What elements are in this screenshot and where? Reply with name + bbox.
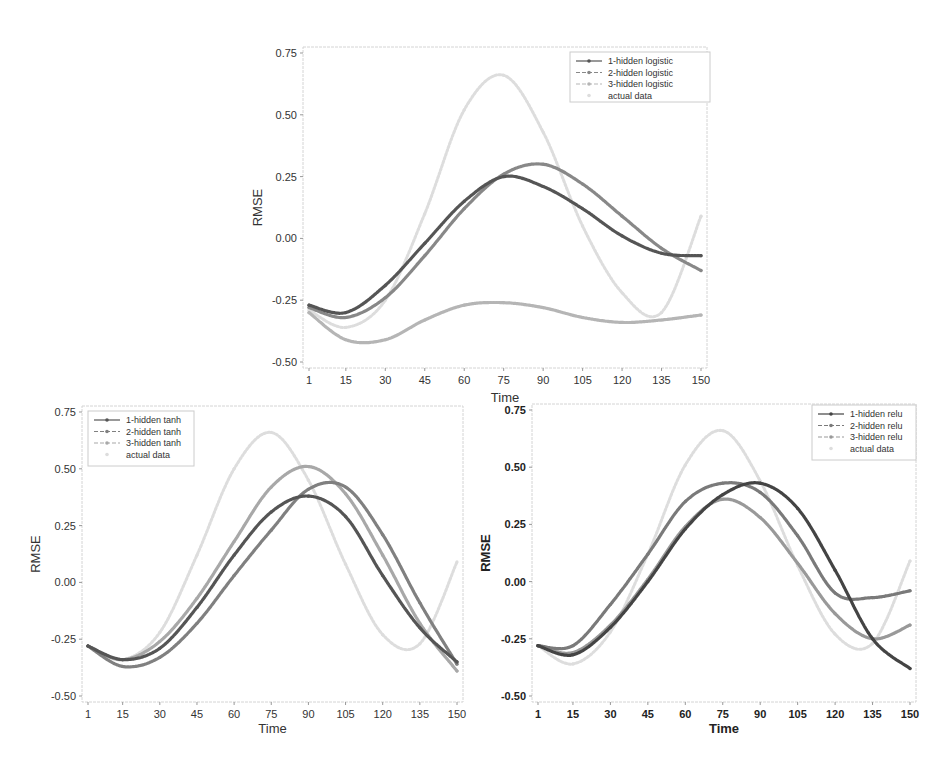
- series-line: [538, 499, 910, 653]
- data-point: [381, 574, 384, 577]
- data-point: [344, 316, 347, 319]
- data-point: [721, 482, 724, 485]
- legend-marker-swatch: [105, 453, 109, 457]
- data-point: [684, 463, 687, 466]
- data-point: [307, 465, 310, 468]
- data-point: [233, 554, 236, 557]
- y-axis-label: RMSE: [478, 534, 493, 572]
- y-axis-label: RMSE: [28, 535, 43, 573]
- x-tick-label: 150: [692, 374, 710, 386]
- series-3-hidden-logistic: [307, 301, 702, 343]
- series-line: [309, 176, 701, 313]
- data-point: [502, 74, 505, 77]
- x-tick-label: 15: [117, 708, 129, 720]
- data-point: [195, 622, 198, 625]
- y-tick-label: 0.00: [276, 232, 297, 244]
- data-point: [660, 318, 663, 321]
- data-point: [307, 479, 310, 482]
- data-point: [463, 304, 466, 307]
- data-point: [384, 338, 387, 341]
- legend-marker-swatch: [829, 447, 833, 451]
- y-tick-label: 0.00: [55, 576, 76, 588]
- data-point: [270, 431, 273, 434]
- x-tick-label: 90: [537, 374, 549, 386]
- data-point: [307, 304, 310, 307]
- data-point: [834, 612, 837, 615]
- data-point: [699, 254, 702, 257]
- data-point: [195, 597, 198, 600]
- y-tick-label: -0.25: [272, 294, 297, 306]
- data-point: [463, 207, 466, 210]
- legend-label: actual data: [850, 444, 894, 454]
- chart-relu: -0.50-0.250.000.250.500.7511530456075901…: [478, 404, 919, 736]
- x-tick-label: 105: [573, 374, 591, 386]
- x-tick-label: 120: [826, 708, 844, 720]
- y-tick-label: 0.75: [276, 47, 297, 59]
- legend-marker-swatch: [829, 412, 833, 416]
- data-point: [270, 529, 273, 532]
- series-line: [538, 483, 910, 669]
- chart-tanh: -0.50-0.250.000.250.500.7511530456075901…: [28, 406, 466, 736]
- data-point: [233, 540, 236, 543]
- x-tick-label: 75: [717, 708, 729, 720]
- x-tick-label: 120: [613, 374, 631, 386]
- data-point: [660, 252, 663, 255]
- data-point: [121, 658, 124, 661]
- data-point: [571, 644, 574, 647]
- data-point: [660, 247, 663, 250]
- x-tick-label: 105: [788, 708, 806, 720]
- data-point: [344, 311, 347, 314]
- data-point: [423, 242, 426, 245]
- data-point: [344, 492, 347, 495]
- data-point: [796, 507, 799, 510]
- data-point: [455, 669, 458, 672]
- y-axis-label: RMSE: [250, 188, 265, 226]
- series-1-hidden-relu: [536, 482, 911, 671]
- x-tick-label: 105: [336, 708, 354, 720]
- data-point: [646, 553, 649, 556]
- x-tick-label: 135: [411, 708, 429, 720]
- data-point: [908, 623, 911, 626]
- data-point: [344, 563, 347, 566]
- legend-marker-swatch: [587, 94, 591, 98]
- data-point: [620, 321, 623, 324]
- legend-label: actual data: [608, 91, 652, 101]
- data-point: [660, 311, 663, 314]
- x-tick-label: 60: [679, 708, 691, 720]
- y-tick-label: 0.25: [55, 520, 76, 532]
- y-tick-label: -0.25: [51, 633, 76, 645]
- x-tick-label: 60: [228, 708, 240, 720]
- data-point: [542, 131, 545, 134]
- data-point: [796, 534, 799, 537]
- data-point: [581, 207, 584, 210]
- y-tick-label: 0.75: [505, 404, 526, 416]
- legend-marker-swatch: [105, 418, 109, 422]
- y-tick-label: -0.25: [501, 633, 526, 645]
- data-point: [270, 510, 273, 513]
- series-3-hidden-relu: [536, 498, 911, 654]
- data-point: [620, 234, 623, 237]
- x-tick-label: 75: [265, 708, 277, 720]
- legend: 1-hidden relu2-hidden relu3-hidden relua…: [812, 405, 916, 460]
- data-point: [834, 633, 837, 636]
- legend-marker-swatch: [587, 59, 591, 63]
- data-point: [502, 175, 505, 178]
- x-axis-label: Time: [709, 721, 739, 736]
- x-tick-label: 30: [154, 708, 166, 720]
- data-point: [759, 516, 762, 519]
- data-point: [381, 554, 384, 557]
- data-point: [418, 642, 421, 645]
- data-point: [908, 667, 911, 670]
- data-point: [721, 493, 724, 496]
- data-point: [684, 527, 687, 530]
- data-point: [609, 626, 612, 629]
- data-point: [344, 338, 347, 341]
- legend-label: 2-hidden relu: [850, 421, 903, 431]
- legend-marker-swatch: [105, 430, 109, 434]
- data-point: [418, 626, 421, 629]
- x-tick-label: 120: [374, 708, 392, 720]
- data-point: [307, 488, 310, 491]
- data-point: [158, 656, 161, 659]
- x-tick-label: 30: [604, 708, 616, 720]
- data-point: [699, 215, 702, 218]
